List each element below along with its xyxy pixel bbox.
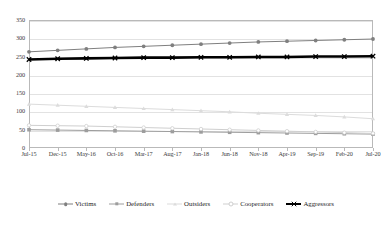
data-point-marker <box>56 128 60 132</box>
series-layer <box>29 20 373 148</box>
data-point-marker <box>85 129 89 133</box>
legend-label: Aggressors <box>303 201 334 208</box>
legend-marker-icon <box>167 200 182 208</box>
data-point-marker <box>84 47 88 51</box>
data-point-marker <box>285 129 288 132</box>
y-axis-tick-label: 200 <box>0 72 25 78</box>
legend-item-victims[interactable]: Victims <box>58 200 96 208</box>
legend-label: Cooperators <box>240 201 273 208</box>
data-point-marker <box>314 130 317 133</box>
y-axis-tick-label: 100 <box>0 108 25 114</box>
data-point-marker <box>142 129 146 133</box>
y-axis-tick-label: 250 <box>0 54 25 60</box>
y-axis-tick-label: 50 <box>0 127 25 133</box>
legend-item-defenders[interactable]: Defenders <box>109 200 154 208</box>
data-point-marker <box>371 37 375 41</box>
data-point-marker <box>170 43 174 47</box>
data-point-marker <box>85 124 88 127</box>
data-point-marker <box>228 128 231 131</box>
series-aggressors <box>27 54 375 62</box>
y-axis-tick-label: 350 <box>0 17 25 23</box>
data-point-marker <box>27 128 31 132</box>
x-axis-tick-mark <box>58 148 59 151</box>
series-victims <box>27 37 375 54</box>
data-point-marker <box>199 127 202 130</box>
data-point-marker <box>27 50 31 54</box>
x-axis-tick-mark <box>230 148 231 151</box>
x-axis-tick-mark <box>86 148 87 151</box>
legend-marker-icon <box>286 200 301 208</box>
x-axis-tick-mark <box>373 148 374 151</box>
legend-item-outsiders[interactable]: Outsiders <box>167 200 210 208</box>
data-point-marker <box>256 40 260 44</box>
data-point-marker <box>142 126 145 129</box>
legend-label: Victims <box>75 201 96 208</box>
x-axis-tick-mark <box>144 148 145 151</box>
data-point-marker <box>27 124 30 127</box>
x-axis-tick-mark <box>201 148 202 151</box>
legend-marker-icon <box>223 200 238 208</box>
legend-marker-icon <box>109 200 124 208</box>
legend-label: Outsiders <box>184 201 210 208</box>
data-point-marker <box>285 39 289 43</box>
legend-marker-icon <box>58 200 73 208</box>
data-point-marker <box>257 129 260 132</box>
data-point-marker <box>199 42 203 46</box>
data-point-marker <box>113 129 117 133</box>
data-point-marker <box>56 48 60 52</box>
data-point-marker <box>342 38 346 42</box>
data-point-marker <box>113 125 116 128</box>
data-point-marker <box>371 132 374 135</box>
y-axis-tick-label: 150 <box>0 90 25 96</box>
legend-item-aggressors[interactable]: Aggressors <box>286 200 334 208</box>
x-axis-tick-mark <box>258 148 259 151</box>
x-axis-tick-mark <box>115 148 116 151</box>
data-point-marker <box>228 41 232 45</box>
x-axis-tick-mark <box>29 148 30 151</box>
data-point-marker <box>343 131 346 134</box>
x-axis-tick-mark <box>316 148 317 151</box>
x-axis-tick-label: Jul-20 <box>356 151 390 157</box>
data-point-marker <box>56 124 59 127</box>
legend-label: Defenders <box>126 201 154 208</box>
x-axis-tick-mark <box>287 148 288 151</box>
data-point-marker <box>171 127 174 130</box>
data-point-marker <box>314 39 318 43</box>
data-point-marker <box>113 46 117 50</box>
line-chart: 050100150200250300350 Jul-15Dec-15May-16… <box>0 0 392 228</box>
chart-legend: VictimsDefendersOutsidersCooperatorsAggr… <box>0 200 392 208</box>
y-axis-tick-label: 300 <box>0 35 25 41</box>
data-point-marker <box>142 44 146 48</box>
series-outsiders <box>27 102 375 120</box>
x-axis-tick-mark <box>344 148 345 151</box>
x-axis-tick-mark <box>172 148 173 151</box>
legend-item-cooperators[interactable]: Cooperators <box>223 200 273 208</box>
